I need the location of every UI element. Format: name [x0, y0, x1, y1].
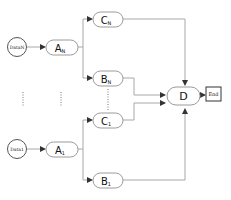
label-end: End: [208, 91, 219, 97]
label-bn-sub: N: [108, 79, 112, 85]
label-c1-sub: 1: [108, 121, 111, 127]
edge-c1-d: [123, 103, 165, 120]
label-c1: C: [101, 116, 108, 127]
flow-diagram: DataN AN CN BN Data1 A1 C1 B1 D End: [0, 0, 231, 200]
edge-bn-d: [123, 78, 165, 95]
ellipsis-dots: [23, 89, 108, 110]
label-cn-sub: N: [108, 20, 112, 26]
edge-cn-d: [123, 19, 185, 85]
label-d: D: [179, 90, 187, 103]
label-data1: Data1: [10, 147, 24, 152]
label-datan: DataN: [10, 45, 25, 50]
label-b1-sub: 1: [108, 181, 111, 187]
label-a1-sub: 1: [62, 150, 65, 156]
label-an-sub: N: [62, 48, 66, 54]
label-cn: C: [101, 15, 108, 26]
